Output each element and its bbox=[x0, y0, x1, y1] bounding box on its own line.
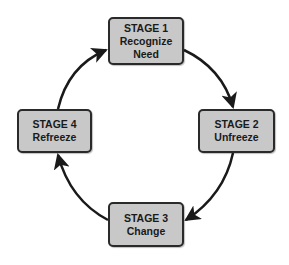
stage-2-title: STAGE 2 bbox=[214, 118, 258, 131]
stage-1-label-line-2: Need bbox=[133, 48, 159, 61]
arrow-stage3-to-stage4 bbox=[58, 155, 108, 220]
stage-4-title: STAGE 4 bbox=[32, 118, 76, 131]
stage-4-label: Refreeze bbox=[33, 131, 77, 144]
arrow-stage4-to-stage1 bbox=[58, 50, 106, 109]
stage-3-box: STAGE 3 Change bbox=[108, 202, 184, 247]
stage-3-title: STAGE 3 bbox=[124, 212, 168, 225]
arrow-stage1-to-stage2 bbox=[184, 50, 233, 107]
stage-3-label: Change bbox=[127, 225, 166, 238]
stage-4-box: STAGE 4 Refreeze bbox=[17, 109, 92, 153]
stage-1-box: STAGE 1 Recognize Need bbox=[108, 17, 184, 65]
stage-1-label-line-1: Recognize bbox=[120, 35, 173, 48]
stage-2-box: STAGE 2 Unfreeze bbox=[198, 109, 275, 153]
stage-2-label: Unfreeze bbox=[214, 131, 258, 144]
stage-1-title: STAGE 1 bbox=[124, 22, 168, 35]
arrow-stage2-to-stage3 bbox=[186, 153, 233, 220]
